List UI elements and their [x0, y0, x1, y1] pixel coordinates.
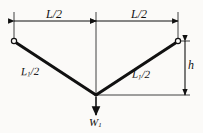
load-symbol: W: [89, 116, 98, 128]
member-left-label: L1/2: [21, 66, 39, 78]
node-right-support: [175, 38, 180, 43]
member-right-label: L1/2: [132, 69, 150, 81]
load-subscript: 1: [98, 121, 101, 128]
free-body-diagram: L/2 L/2 L1/2 L1/2 h W1: [0, 0, 203, 133]
load-label: W1: [89, 117, 102, 129]
member-right-suffix: /2: [141, 68, 150, 80]
span-right-label: L/2: [131, 8, 147, 20]
height-label: h: [188, 59, 194, 71]
node-left-support: [11, 38, 16, 43]
member-left-suffix: /2: [30, 65, 39, 77]
extension-lines: [14, 12, 190, 95]
span-left-label: L/2: [46, 8, 62, 20]
